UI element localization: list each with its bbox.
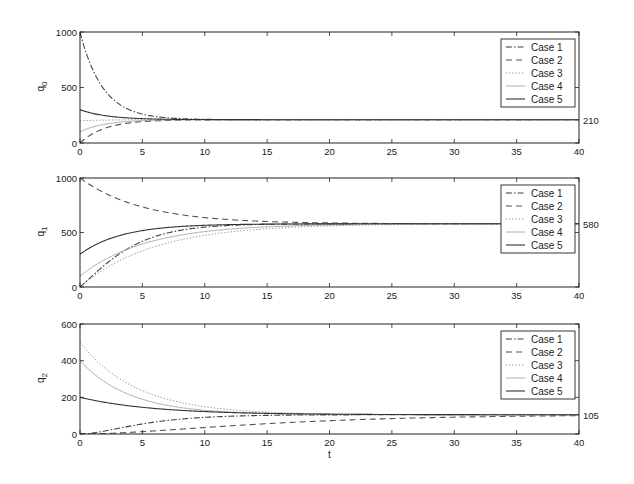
panel-middle: 051015202530354005001000q1580Case 1Case … — [35, 173, 599, 302]
x-tick-label: 20 — [324, 437, 335, 448]
legend-label-case-2: Case 2 — [531, 55, 563, 66]
x-tick-label: 0 — [77, 437, 82, 448]
y-tick-label: 1000 — [56, 27, 77, 38]
legend-label-case-4: Case 4 — [531, 373, 563, 384]
legend: Case 1Case 2Case 3Case 4Case 5 — [501, 39, 575, 107]
steady-state-label: 580 — [583, 219, 599, 230]
x-tick-label: 30 — [449, 437, 460, 448]
x-tick-label: 15 — [262, 290, 273, 301]
x-tick-label: 5 — [140, 290, 145, 301]
x-tick-label: 15 — [262, 146, 273, 157]
x-tick-label: 40 — [574, 146, 585, 157]
legend-label-case-5: Case 5 — [531, 240, 563, 251]
legend-label-case-5: Case 5 — [531, 386, 563, 397]
legend: Case 1Case 2Case 3Case 4Case 5 — [501, 331, 575, 399]
x-tick-label: 30 — [449, 290, 460, 301]
legend-label-case-5: Case 5 — [531, 94, 563, 105]
y-tick-label: 600 — [61, 319, 77, 330]
x-tick-label: 0 — [77, 146, 82, 157]
x-tick-label: 40 — [574, 437, 585, 448]
series-case-5 — [80, 110, 579, 120]
x-tick-label: 35 — [511, 146, 522, 157]
legend-label-case-3: Case 3 — [531, 360, 563, 371]
x-tick-label: 30 — [449, 146, 460, 157]
y-tick-label: 500 — [61, 227, 77, 238]
y-tick-label: 0 — [72, 138, 77, 149]
x-tick-label: 40 — [574, 290, 585, 301]
legend-label-case-3: Case 3 — [531, 68, 563, 79]
legend-label-case-4: Case 4 — [531, 227, 563, 238]
series-case-4 — [80, 120, 579, 132]
legend-label-case-1: Case 1 — [531, 334, 563, 345]
y-axis-label: q2 — [35, 372, 49, 383]
x-axis-label: t — [328, 449, 331, 460]
series-case-5 — [80, 397, 579, 414]
x-tick-label: 0 — [77, 290, 82, 301]
x-tick-label: 20 — [324, 146, 335, 157]
y-tick-label: 0 — [72, 429, 77, 440]
steady-state-label: 210 — [583, 115, 599, 126]
panel-bottom: 05101520253035400200400600q2105tCase 1Ca… — [35, 319, 599, 461]
legend: Case 1Case 2Case 3Case 4Case 5 — [501, 185, 575, 253]
legend-label-case-2: Case 2 — [531, 201, 563, 212]
x-tick-label: 25 — [387, 290, 398, 301]
x-tick-label: 10 — [199, 290, 210, 301]
x-tick-label: 5 — [140, 437, 145, 448]
x-tick-label: 35 — [511, 437, 522, 448]
y-tick-label: 500 — [61, 82, 77, 93]
y-tick-label: 200 — [61, 392, 77, 403]
y-tick-label: 400 — [61, 355, 77, 366]
steady-state-label: 105 — [583, 410, 599, 421]
legend-label-case-2: Case 2 — [531, 347, 563, 358]
legend-label-case-1: Case 1 — [531, 188, 563, 199]
y-axis-label: q1 — [35, 226, 49, 237]
y-tick-label: 1000 — [56, 173, 77, 184]
x-tick-label: 5 — [140, 146, 145, 157]
legend-label-case-3: Case 3 — [531, 214, 563, 225]
x-tick-label: 20 — [324, 290, 335, 301]
y-axis-label: q0 — [35, 81, 49, 92]
panel-top: 051015202530354005001000q0210Case 1Case … — [35, 27, 599, 158]
x-tick-label: 25 — [387, 437, 398, 448]
legend-label-case-1: Case 1 — [531, 42, 563, 53]
x-tick-label: 25 — [387, 146, 398, 157]
figure: 051015202530354005001000q0210Case 1Case … — [0, 0, 634, 484]
legend-label-case-4: Case 4 — [531, 81, 563, 92]
x-tick-label: 10 — [199, 437, 210, 448]
x-tick-label: 10 — [199, 146, 210, 157]
y-tick-label: 0 — [72, 282, 77, 293]
x-tick-label: 35 — [511, 290, 522, 301]
x-tick-label: 15 — [262, 437, 273, 448]
